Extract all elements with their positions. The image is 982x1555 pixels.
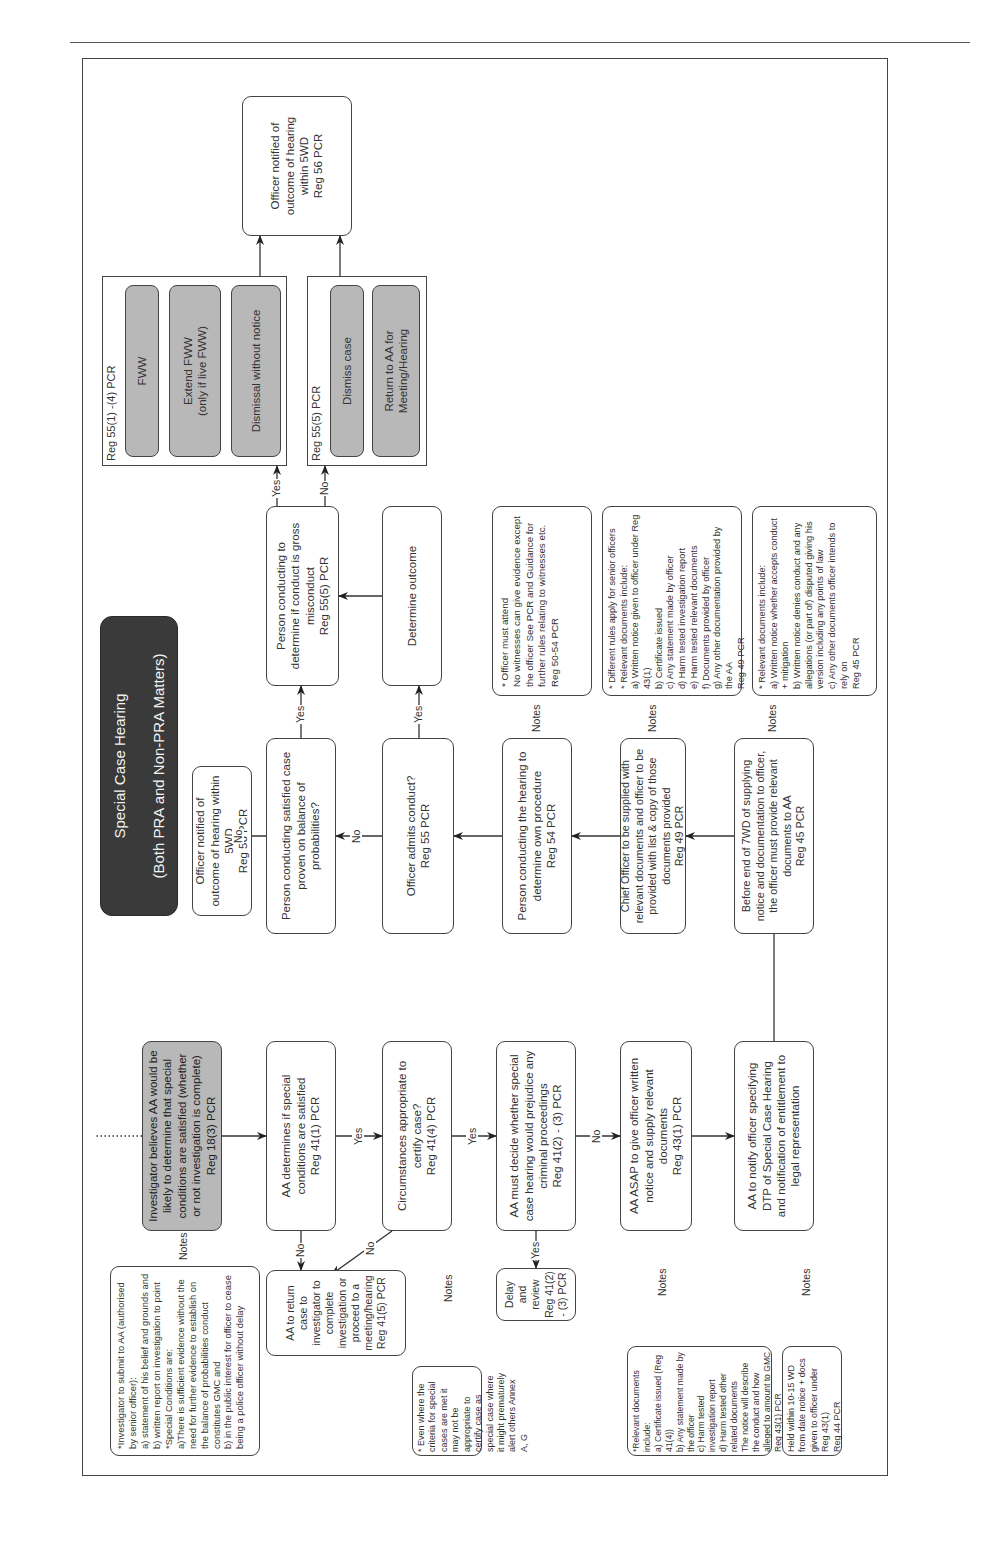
circumstances-appropriate: Circumstances appropriate to certify cas… <box>382 1041 452 1231</box>
group-label: Reg 55(5) PCR <box>310 386 322 461</box>
label-no-satisfied: No <box>232 829 244 844</box>
delay-and-review: Delay and review Reg 41(2) - (3) PCR <box>496 1268 576 1321</box>
label-yes-satisfied: Yes <box>294 705 306 724</box>
label-yes-admits: Yes <box>412 705 424 724</box>
before-end-7wd: Before end of 7WD of supplying notice an… <box>734 738 814 934</box>
outcome-group-reg-55-1-4: Reg 55(1) -(4) PCR FWW Extend FWW (only … <box>102 276 287 466</box>
outcome-group-reg-55-5: Reg 55(5) PCR Dismiss case Return to AA … <box>307 276 427 466</box>
notes-link-procedure: Notes <box>530 703 542 734</box>
option-dismiss-case: Dismiss case <box>330 285 364 457</box>
group-label: Reg 55(1) -(4) PCR <box>105 366 117 461</box>
label-yes-delay: Yes <box>529 1241 541 1260</box>
label-yes-gross: Yes <box>270 479 282 498</box>
flowchart-canvas: Special Case Hearing (Both PRA and Non-P… <box>82 58 888 1476</box>
start-investigator-belief: Investigator believes AA would be likely… <box>142 1041 222 1231</box>
notes-link-chief: Notes <box>646 703 658 734</box>
person-conducting-own-procedure: Person conducting the hearing to determi… <box>502 738 572 934</box>
notes-link-circumstances: Notes <box>442 1273 454 1304</box>
aa-return-case: AA to return case to investigator to com… <box>266 1270 406 1356</box>
note-officer-attendance: * Officer must attend No witnesses can g… <box>492 506 592 696</box>
satisfied-balance-of-probabilities: Person conducting satisfied case proven … <box>266 738 336 934</box>
label-no-circumstances: No <box>364 1241 376 1256</box>
determine-outcome: Determine outcome <box>382 506 442 686</box>
option-extend-fww: Extend FWW (only if live FWW) <box>169 285 221 457</box>
option-dismissal-without-notice: Dismissal without notice <box>231 285 281 457</box>
label-no-aa-determines: No <box>294 1243 306 1258</box>
officer-admits-conduct: Officer admits conduct? Reg 55 PCR <box>382 738 454 934</box>
title-line-1: Special Case Hearing <box>110 653 130 878</box>
aa-asap-notice: AA ASAP to give officer written notice a… <box>620 1041 692 1231</box>
label-yes-circumstances: Yes <box>466 1127 478 1146</box>
title-line-2: (Both PRA and Non-PRA Matters) <box>149 653 169 878</box>
label-no-admits: No <box>350 829 362 844</box>
officer-notified-outcome-final: Officer notified of outcome of hearing w… <box>242 96 352 236</box>
aa-prejudice-decision: AA must decide whether special case hear… <box>496 1041 576 1231</box>
note-relevant-documents-43: *Relevant documents include: a) Certific… <box>627 1346 772 1456</box>
note-held-within: Held within 10-15 WD from date notice + … <box>782 1346 842 1456</box>
notes-link-7wd: Notes <box>766 703 778 734</box>
note-investigator-submit: *Investigator to submit to AA (authorise… <box>110 1266 260 1456</box>
notes-link-notify: Notes <box>800 1267 812 1298</box>
page-header-rule <box>70 42 970 43</box>
option-return-to-aa: Return to AA for Meeting/Hearing <box>372 285 420 457</box>
label-no-gross: No <box>318 481 330 496</box>
label-no-prejudice: No <box>590 1129 602 1144</box>
option-fww: FWW <box>125 285 159 457</box>
note-senior-officers-documents: * Different rules apply for senior offic… <box>602 506 742 696</box>
notes-link-asap: Notes <box>656 1267 668 1298</box>
diagram-title: Special Case Hearing (Both PRA and Non-P… <box>100 616 178 916</box>
chief-officer-documents: Chief Officer to be supplied with releva… <box>620 738 686 934</box>
label-yes-aa-determines: Yes <box>352 1127 364 1146</box>
notes-link-start: Notes <box>177 1231 189 1262</box>
note-officer-relevant-documents: * Relevant documents include: a) Written… <box>752 506 877 696</box>
note-criteria: * Even where the criteria for special ca… <box>412 1366 482 1456</box>
gross-misconduct-determination: Person conducting to determine if conduc… <box>266 506 339 686</box>
aa-determines-special-conditions: AA determines if special conditions are … <box>266 1041 336 1231</box>
aa-notify-dtp: AA to notify officer specifying DTP of S… <box>734 1041 814 1231</box>
